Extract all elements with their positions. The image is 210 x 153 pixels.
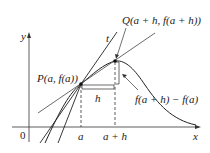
- point-p-label: P(a, f(a)): [36, 72, 78, 85]
- y-axis-arrow-icon: [27, 32, 31, 38]
- x-axis-label: x: [192, 130, 198, 142]
- point-q-label: Q(a + h, f(a + h)): [122, 14, 201, 27]
- x-axis-arrow-icon: [195, 125, 201, 129]
- rise-pointer-line: [124, 76, 138, 90]
- rise-bracket: [116, 62, 119, 84]
- point-p: [79, 82, 83, 86]
- tangent-line: [40, 32, 117, 143]
- y-axis-label: y: [20, 30, 26, 42]
- derivative-diagram: y x 0 a a + h t h P(a, f(a)) Q(a + h, f(…: [0, 0, 210, 153]
- tick-label-a: a: [78, 130, 84, 142]
- origin-label: 0: [20, 129, 26, 141]
- rise-label: f(a + h) − f(a): [135, 93, 198, 106]
- rise-pointer-arrow-icon: [122, 74, 127, 78]
- q-pointer-line: [117, 28, 126, 56]
- tick-label-a-plus-h: a + h: [103, 130, 127, 142]
- h-bracket: [82, 85, 114, 89]
- point-q: [113, 59, 117, 63]
- increment-label: h: [95, 92, 101, 104]
